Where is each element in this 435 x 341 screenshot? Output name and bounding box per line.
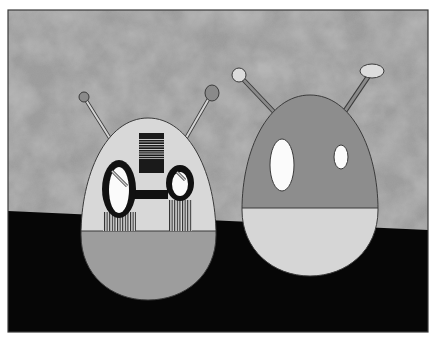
antenna-ball-icon [360, 64, 384, 78]
robot-illustration [0, 0, 435, 341]
goggle-right [166, 165, 194, 201]
goggle-left [102, 160, 136, 218]
goggle-bridge [132, 190, 168, 199]
eye-left [270, 139, 294, 191]
antenna-ball-icon [205, 85, 219, 101]
goggle-lens-left [109, 167, 129, 213]
antenna-ball-icon [79, 92, 89, 102]
stripe-panel-right [169, 200, 192, 231]
antenna-ball-icon [232, 68, 246, 82]
eye-right [334, 145, 348, 169]
barcode-box [139, 133, 164, 180]
